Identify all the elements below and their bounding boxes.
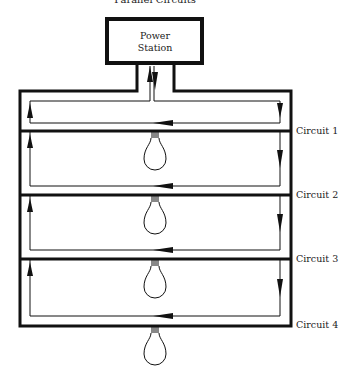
light-bulb-icon: [144, 133, 166, 170]
arrow-down-icon: [277, 279, 283, 297]
arrow-up-icon: [27, 134, 33, 148]
circuit-label-1: Circuit 1: [296, 125, 338, 136]
arrowheads: [27, 66, 283, 319]
arrow-up-icon: [27, 262, 33, 276]
arrow-down-icon: [152, 72, 158, 90]
arrow-left-icon: [153, 120, 173, 126]
power-station-label-line1: Power: [140, 30, 170, 41]
arrow-left-icon: [153, 183, 173, 189]
arrow-down-icon: [277, 214, 283, 232]
power-station-label-line2: Station: [138, 42, 173, 53]
parallel-circuits-diagram: Parallel Circuits Power Station: [0, 0, 351, 381]
main-wiring: [20, 63, 291, 326]
light-bulb-icon: [144, 197, 166, 234]
arrow-down-icon: [277, 103, 283, 118]
arrow-left-icon: [153, 313, 173, 319]
power-station: Power Station: [107, 19, 202, 63]
arrow-up-icon: [27, 103, 33, 118]
circuit-label-2: Circuit 2: [296, 189, 338, 200]
arrow-up-icon: [147, 66, 153, 82]
light-bulb-icon: [144, 261, 166, 298]
light-bulb-icon: [144, 328, 166, 365]
arrow-left-icon: [153, 247, 173, 253]
diagram-title: Parallel Circuits: [114, 0, 196, 5]
arrow-down-icon: [277, 150, 283, 168]
circuit-label-3: Circuit 3: [296, 253, 338, 264]
arrow-up-icon: [27, 198, 33, 212]
circuit-label-4: Circuit 4: [296, 319, 338, 330]
current-flow-lines: [30, 66, 280, 316]
